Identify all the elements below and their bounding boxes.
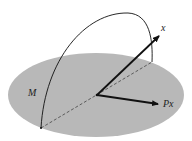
projection-label: Px: [162, 98, 174, 109]
projection-diagram: M x Px: [0, 0, 192, 141]
vector-label: x: [160, 22, 166, 33]
arc-endpoint: [40, 127, 42, 129]
plane-label: M: [27, 87, 37, 98]
origin-point: [96, 94, 99, 97]
